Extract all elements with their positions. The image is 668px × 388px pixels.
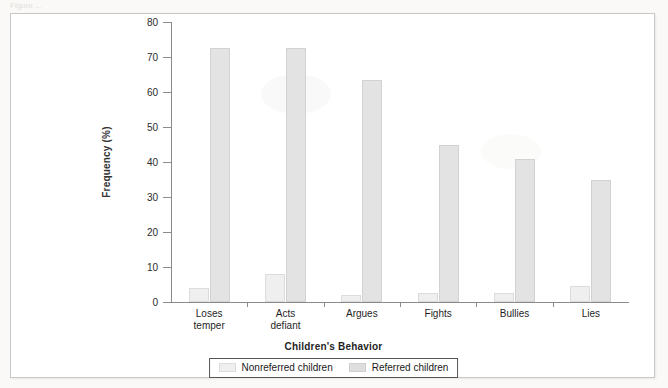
x-axis-category-label-line: Loses [169,308,249,320]
y-axis-tick-label: 70 [118,52,158,63]
x-axis-tick [400,302,401,307]
y-axis-tick [163,232,171,233]
y-axis-tick-label: 40 [118,157,158,168]
x-axis-tick [553,302,554,307]
y-axis-tick [163,197,171,198]
y-axis-title: Frequency (%) [101,126,112,198]
y-axis-tick-label: 20 [118,227,158,238]
x-axis-tick [324,302,325,307]
x-axis-category-label: Losestemper [169,308,249,332]
bar-nonreferred [570,286,590,302]
bar-referred [591,180,611,303]
page-background: Figure ... Frequency (%) 010203040506070… [0,0,668,388]
bar-nonreferred [265,274,285,302]
bar-referred [439,145,459,303]
bar-group [494,22,535,302]
x-axis-category-label: Fights [398,308,478,320]
x-axis-category-label-line: Fights [398,308,478,320]
y-axis-tick [163,302,171,303]
bar-referred [210,48,230,302]
y-axis-tick-label: 0 [118,297,158,308]
y-axis-tick [163,22,171,23]
legend-item: Referred children [349,362,449,373]
y-axis-tick-label: 10 [118,262,158,273]
bar-nonreferred [494,293,514,302]
x-axis-category-label-line: Argues [322,308,402,320]
y-axis-tick [163,162,171,163]
bar-group [418,22,459,302]
y-axis-tick [163,267,171,268]
chart-legend: Nonreferred childrenReferred children [209,358,459,378]
x-axis-category-label-line: temper [169,320,249,332]
bar-nonreferred [189,288,209,302]
bar-referred [515,159,535,303]
bar-group [341,22,382,302]
x-axis-category-label-line: Bullies [475,308,555,320]
chart-plot-area: Frequency (%) 01020304050607080 Losestem… [11,14,656,379]
legend-swatch-referred [349,363,366,372]
y-axis-tick [163,127,171,128]
bar-nonreferred [418,293,438,302]
x-axis-title: Children's Behavior [11,341,656,352]
y-axis-tick [163,92,171,93]
bar-group [570,22,611,302]
y-axis-tick [163,57,171,58]
x-axis-category-label-line: Acts [246,308,326,320]
x-axis-category-label-line: defiant [246,320,326,332]
legend-item: Nonreferred children [219,362,333,373]
figure-caption-fragment: Figure ... [0,0,668,11]
figure-box: Frequency (%) 01020304050607080 Losestem… [10,13,655,378]
x-axis-tick [476,302,477,307]
x-axis-category-label: Bullies [475,308,555,320]
x-axis-category-label: Actsdefiant [246,308,326,332]
x-axis-category-label: Lies [551,308,631,320]
bar-referred [286,48,306,302]
y-axis-tick-label: 30 [118,192,158,203]
x-axis-category-label: Argues [322,308,402,320]
bar-group [265,22,306,302]
legend-label: Nonreferred children [242,362,333,373]
y-axis-tick-label: 60 [118,87,158,98]
y-axis-line [171,22,172,302]
y-axis-tick-label: 80 [118,17,158,28]
bar-referred [362,80,382,302]
x-axis-tick [247,302,248,307]
legend-swatch-nonreferred [219,363,236,372]
legend-label: Referred children [372,362,449,373]
x-axis-category-label-line: Lies [551,308,631,320]
bar-group [189,22,230,302]
y-axis-tick-label: 50 [118,122,158,133]
bar-nonreferred [341,295,361,302]
